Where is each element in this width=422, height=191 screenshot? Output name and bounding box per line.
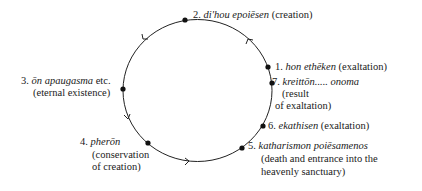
node-num: 2. <box>193 9 201 20</box>
node-label-1: 1. hon ethēken (exaltation) <box>275 61 387 73</box>
node-gloss-line: of exaltation) <box>272 100 359 112</box>
node-gloss-line: (eternal existence) <box>21 87 111 99</box>
node-dot-2 <box>182 17 187 22</box>
node-suffix: etc. <box>96 75 111 86</box>
node-term: di'hou epoiēsen <box>204 9 270 20</box>
node-dot-1 <box>265 64 270 69</box>
arrow-icon <box>185 158 189 165</box>
node-num: 5. <box>248 140 256 151</box>
node-gloss-line: heavenly sanctuary) <box>248 166 378 178</box>
node-label-3: 3. ōn apaugasma etc. (eternal existence) <box>21 75 111 99</box>
node-dot-3 <box>120 86 125 91</box>
node-dot-5 <box>239 145 244 150</box>
node-term: kreittōn..... onoma <box>283 76 360 87</box>
node-dot-6 <box>260 123 265 128</box>
node-gloss-line: (result <box>272 88 359 100</box>
node-term: hon ethēken <box>286 61 336 72</box>
node-term: ōn apaugasma <box>32 75 94 86</box>
node-term: ekathisen <box>279 120 319 131</box>
node-label-5: 5. katharismon poiēsamenos (death and en… <box>248 140 378 178</box>
node-gloss: (exaltation) <box>339 61 387 72</box>
node-num: 4. <box>80 136 88 147</box>
node-term: katharismon poiēsamenos <box>259 140 368 151</box>
node-label-2: 2. di'hou epoiēsen (creation) <box>193 9 312 21</box>
node-num: 3. <box>21 75 29 86</box>
node-gloss-line: of creation) <box>80 161 149 173</box>
node-gloss: (exaltation) <box>321 120 369 131</box>
node-term: pherōn <box>91 136 121 147</box>
node-num: 6. <box>268 120 276 131</box>
node-num: 7. <box>272 76 280 87</box>
node-label-4: 4. pherōn (conservation of creation) <box>80 136 149 173</box>
node-label-7: 7. kreittōn..... onoma (result of exalta… <box>272 76 359 112</box>
node-num: 1. <box>275 61 283 72</box>
node-gloss: (creation) <box>272 9 313 20</box>
node-gloss-line: (death and entrance into the <box>248 153 378 165</box>
node-gloss-line: (conservation <box>80 149 149 161</box>
node-label-6: 6. ekathisen (exaltation) <box>268 120 369 132</box>
